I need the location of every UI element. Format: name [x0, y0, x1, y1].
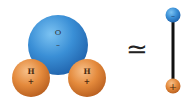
dipole-negative-charge: –: [171, 11, 175, 20]
approx-equal-symbol: ≃: [126, 34, 148, 64]
dipole-rod: [172, 20, 175, 82]
hydrogen-right-symbol: H: [83, 67, 90, 76]
hydrogen-left-charge: +: [28, 77, 34, 86]
oxygen-charge: –: [56, 40, 60, 49]
oxygen-symbol: O: [55, 28, 62, 37]
dipole-model: – +: [166, 8, 181, 94]
hydrogen-right-charge: +: [84, 77, 90, 86]
dipole-positive-charge: +: [169, 81, 177, 92]
water-dipole-diagram: O – H + H + ≃ – +: [0, 0, 192, 101]
hydrogen-left-symbol: H: [27, 67, 34, 76]
